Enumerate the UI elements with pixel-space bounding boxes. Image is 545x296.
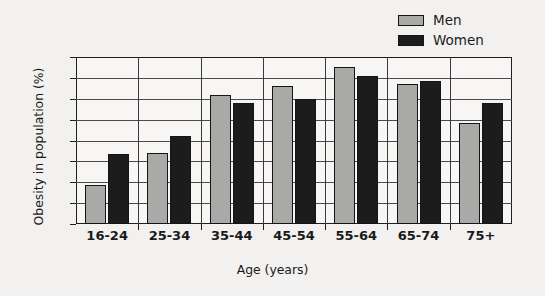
bar-men-25-34 <box>147 153 168 224</box>
legend-item-men: Men <box>398 12 484 28</box>
chart-legend: Men Women <box>398 12 484 48</box>
bar-men-45-54 <box>272 86 293 224</box>
bar-series-group <box>76 57 512 224</box>
y-axis-title: Obesity in population (%) <box>31 47 46 247</box>
legend-swatch-women <box>398 35 424 46</box>
bar-women-35-44 <box>233 103 254 224</box>
legend-label-women: Women <box>433 33 484 47</box>
bar-women-75+ <box>482 103 503 224</box>
bar-women-65-74 <box>420 81 441 224</box>
legend-label-men: Men <box>433 13 462 27</box>
x-tick-label: 75+ <box>441 229 521 242</box>
bar-men-75+ <box>459 123 480 224</box>
y-tick-mark <box>70 224 76 225</box>
x-axis-title: Age (years) <box>0 262 545 277</box>
bar-men-65-74 <box>397 84 418 224</box>
bar-men-55-64 <box>334 67 355 224</box>
bar-women-55-64 <box>357 76 378 224</box>
bar-men-16-24 <box>85 185 106 224</box>
bar-women-16-24 <box>108 154 129 224</box>
legend-swatch-men <box>398 15 424 26</box>
bar-men-35-44 <box>210 95 231 224</box>
legend-item-women: Women <box>398 32 484 48</box>
chart-plot-area: 0510152025303540 16-2425-3435-4445-5455-… <box>76 57 512 224</box>
bar-women-45-54 <box>295 99 316 224</box>
bar-women-25-34 <box>170 136 191 224</box>
